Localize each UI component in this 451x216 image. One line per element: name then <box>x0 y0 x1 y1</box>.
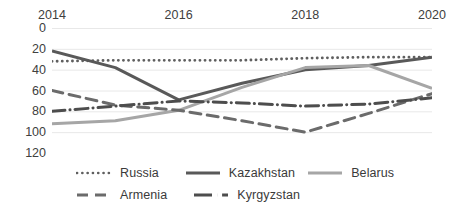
y-tick-label: 40 <box>32 63 46 77</box>
legend-row-2: Armenia Kyrgyzstan <box>0 184 451 206</box>
dashed-line-icon <box>76 190 112 200</box>
legend-row-1: Russia Kazakhstan Belarus <box>0 162 451 184</box>
y-tick-label: 100 <box>25 125 46 139</box>
legend-item-kyrgyzstan[interactable]: Kyrgyzstan <box>193 188 300 202</box>
legend-item-armenia[interactable]: Armenia <box>76 188 167 202</box>
chart-legend: Russia Kazakhstan Belarus <box>0 160 439 212</box>
x-axis: 2014201620182020 <box>0 8 439 28</box>
legend-item-russia[interactable]: Russia <box>76 166 159 180</box>
y-tick-label: 120 <box>25 146 46 160</box>
legend-item-belarus[interactable]: Belarus <box>307 166 394 180</box>
legend-item-kazakhstan[interactable]: Kazakhstan <box>185 166 295 180</box>
y-tick-label: 60 <box>32 84 46 98</box>
series-line-russia <box>52 57 432 61</box>
legend-label-kyrgyzstan: Kyrgyzstan <box>237 188 300 202</box>
solid-line-icon <box>185 168 221 178</box>
legend-label-armenia: Armenia <box>120 188 167 202</box>
legend-label-belarus: Belarus <box>351 166 394 180</box>
x-tick-label: 2020 <box>418 8 446 22</box>
dotted-line-icon <box>76 168 112 178</box>
y-tick-label: 80 <box>32 104 46 118</box>
light-solid-line-icon <box>307 168 343 178</box>
legend-label-kazakhstan: Kazakhstan <box>229 166 295 180</box>
series-line-kazakhstan <box>52 51 432 100</box>
y-tick-label: 20 <box>32 42 46 56</box>
plot-svg <box>52 28 432 153</box>
plot-area <box>52 28 432 153</box>
y-tick-label: 0 <box>39 21 46 35</box>
x-tick-label: 2018 <box>291 8 319 22</box>
legend-label-russia: Russia <box>120 166 159 180</box>
x-tick-label: 2016 <box>165 8 193 22</box>
dash-dot-line-icon <box>193 190 229 200</box>
series-line-belarus <box>52 66 432 124</box>
